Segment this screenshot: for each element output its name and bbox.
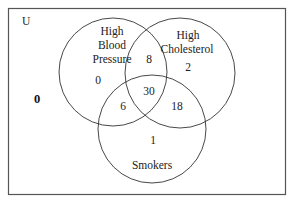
chol-only-count: 2 — [185, 61, 191, 73]
venn-diagram: U 0 High Blood Pressure 0 High Cholester… — [0, 0, 293, 202]
chol-label-line1: High — [177, 29, 200, 42]
bp-label-line2: Blood — [98, 39, 126, 51]
smokers-only-count: 1 — [150, 134, 156, 146]
all-three-count: 30 — [143, 85, 155, 97]
bp-smokers-count: 6 — [120, 100, 126, 112]
bp-chol-count: 8 — [146, 53, 152, 65]
bp-only-count: 0 — [95, 74, 101, 86]
universe-label: U — [22, 15, 31, 27]
bp-label-line3: Pressure — [93, 53, 132, 65]
chol-smokers-count: 18 — [171, 100, 183, 112]
smokers-label: Smokers — [132, 159, 173, 171]
outside-count: 0 — [34, 92, 40, 106]
bp-label-line1: High — [101, 25, 124, 38]
chol-label-line2: Cholesterol — [160, 43, 213, 55]
